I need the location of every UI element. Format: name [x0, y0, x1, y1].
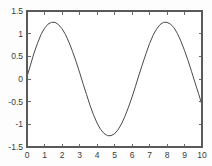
y-tick-label-6: 1.5 — [11, 6, 23, 16]
y-tick-label-4: 0.5 — [11, 51, 23, 61]
y-tick-label-3: 0 — [18, 74, 23, 84]
x-tick-label-4: 4 — [95, 150, 100, 160]
x-tick-label-7: 7 — [147, 150, 152, 160]
y-tick-label-5: 1 — [18, 29, 23, 39]
y-tick-label-0: -1.5 — [8, 142, 23, 152]
x-tick-label-5: 5 — [112, 150, 117, 160]
x-tick-label-3: 3 — [77, 150, 82, 160]
figure-container: 012345678910 -1.5-1-0.500.511.5 — [0, 0, 212, 166]
x-tick-label-1: 1 — [42, 150, 47, 160]
y-tick-label-2: -0.5 — [8, 97, 23, 107]
x-tick-label-2: 2 — [60, 150, 65, 160]
x-tick-label-0: 0 — [25, 150, 30, 160]
x-tick-label-8: 8 — [165, 150, 170, 160]
x-tick-label-6: 6 — [130, 150, 135, 160]
x-tick-label-10: 10 — [197, 150, 207, 160]
y-axis-tick-labels: -1.5-1-0.500.511.5 — [8, 6, 23, 152]
line-chart: 012345678910 -1.5-1-0.500.511.5 — [0, 0, 212, 166]
x-axis-tick-labels: 012345678910 — [25, 150, 207, 160]
x-tick-label-9: 9 — [182, 150, 187, 160]
y-tick-label-1: -1 — [15, 119, 23, 129]
